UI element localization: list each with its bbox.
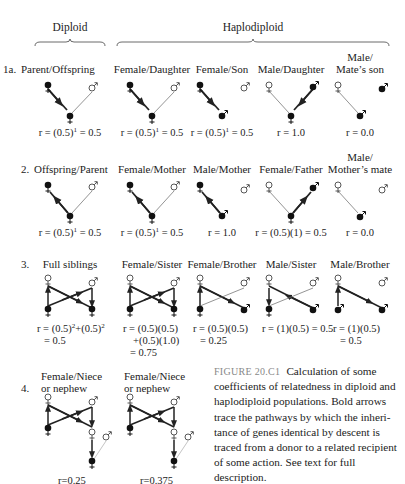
formula-3-full-siblings-2: = 0.5 — [44, 334, 66, 347]
label-female-daughter: Female/Daughter — [114, 63, 190, 76]
diagram-3-male-brother — [335, 275, 388, 313]
formula-3-female-brother-2: = 0.25 — [200, 334, 227, 347]
formula-1a-female-daughter: r = (0.5)1 = 0.5 — [121, 126, 184, 139]
diagram-2-female-mother — [127, 182, 180, 224]
row-number-2: 2. — [21, 163, 29, 176]
label-male-daughter: Male/Daughter — [258, 63, 325, 76]
formula-4-niece-nephew-b: r=0.375 — [140, 474, 173, 484]
diagram-2-male-mother — [197, 182, 250, 220]
label-female-son: Female/Son — [196, 63, 249, 76]
row-number-1a: 1a. — [3, 63, 16, 76]
formula-2-male-mothers-mate: r = 0.0 — [346, 226, 374, 239]
figure-caption: FIGURE 20.C1Calculation of some coeffici… — [214, 364, 402, 484]
label-male-sister: Male/Sister — [266, 258, 317, 271]
label-female-father: Female/Father — [259, 163, 323, 176]
header-diploid: Diploid — [52, 21, 87, 34]
diagram-2-female-father — [266, 182, 319, 224]
formula-1a-male-daughter: r = 1.0 — [277, 126, 305, 139]
diagram-1a-male-mates-son — [335, 82, 388, 119]
row-number-3: 3. — [21, 258, 29, 271]
label-female-mother: Female/Mother — [118, 163, 186, 176]
label-male-brother: Male/Brother — [330, 258, 389, 271]
diagram-4-niece-nephew-b — [127, 394, 194, 469]
formula-3-male-brother-2: = 0.5 — [340, 334, 362, 347]
label-male-mothers-mate-2: Mother’s mate — [328, 163, 392, 176]
label-male-mates-son-2: Mate’s son — [336, 63, 384, 76]
formula-2-male-mother: r = 1.0 — [208, 226, 236, 239]
formula-4-niece-nephew-a: r=0.25 — [58, 474, 86, 484]
diagram-1a-parent-offspring — [45, 82, 98, 124]
formula-3-male-sister: r = (1)(0.5) = 0.5 — [262, 322, 333, 335]
label-female-sister: Female/Sister — [122, 258, 183, 271]
label-male-mother: Male/Mother — [193, 163, 251, 176]
diagram-1a-female-daughter — [127, 82, 180, 124]
formula-3-female-sister-3: = 0.75 — [130, 346, 157, 359]
label-niece-nephew-a-2: or nephew — [41, 382, 87, 395]
label-niece-nephew-b-2: or nephew — [124, 382, 170, 395]
formula-2-offspring-parent: r = (0.5)1 = 0.5 — [39, 226, 102, 239]
formula-1a-male-mates-son: r = 0.0 — [346, 126, 374, 139]
formula-1a-parent-offspring: r = (0.5)1 = 0.5 — [39, 126, 102, 139]
formula-2-female-father: r = (0.5)(1) = 0.5 — [255, 226, 326, 239]
label-female-brother: Female/Brother — [187, 258, 256, 271]
label-offspring-parent: Offspring/Parent — [34, 163, 108, 176]
formula-1a-female-son: r = (0.5)1 = 0.5 — [191, 126, 254, 139]
figure-caption-text: Calculation of some coefficients of rela… — [214, 365, 397, 483]
diagram-4-niece-nephew-a — [45, 394, 112, 469]
figure-label: FIGURE 20.C1 — [214, 366, 280, 377]
label-parent-offspring: Parent/Offspring — [21, 63, 95, 76]
diagram-1a-female-son — [197, 82, 250, 120]
diagram-3-female-brother — [197, 275, 250, 317]
row-number-4: 4. — [21, 382, 29, 395]
diagram-1a-male-daughter — [266, 82, 319, 125]
diagram-3-full-siblings — [45, 275, 98, 317]
label-full-siblings: Full siblings — [43, 258, 98, 271]
diagram-3-female-sister — [127, 275, 180, 317]
diagram-3-male-sister — [266, 275, 319, 317]
formula-2-female-mother: r = (0.5)1 = 0.5 — [121, 226, 184, 239]
diagram-2-male-mothers-mate — [335, 182, 387, 220]
diagram-2-offspring-parent — [45, 182, 98, 224]
header-haplodiploid: Haplodiploid — [223, 21, 284, 34]
